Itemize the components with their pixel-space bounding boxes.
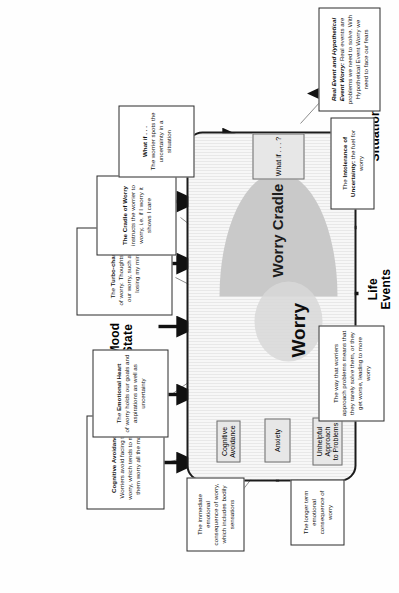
note-emotional-heart: The Emotional Heart of worry holds our g… [92,349,168,437]
label-life-events: Life Events [366,268,391,309]
note-longer-term-body: The longer term emotional consequence of… [301,490,333,534]
node-cognitive-avoidance-label: Cognitive Avoidance [220,425,236,458]
note-immediate-consequence: The immediate emotional consequence of w… [186,477,244,551]
note-what-if-body: The worrier spots the uncertainty in a s… [148,112,171,170]
note-what-if: What if . . . The worrier spots the unce… [118,105,194,177]
note-cradle-of-worry: The Cradle of Worry instructs the worrie… [96,175,176,255]
note-emotional-heart-body: of worry holds our goals and aspirations… [122,354,145,432]
note-what-if-head: What if . . . [140,126,147,157]
node-anxiety-label: Anxiety [273,429,281,452]
node-unhelpful-approach[interactable]: Unhelpful Approach to Problems [312,417,342,465]
note-cradle-of-worry-body: instructs the worrier to worry, i.e. if … [128,185,151,246]
node-unhelpful-approach-label: Unhelpful Approach to Problems [315,422,339,459]
node-anxiety[interactable]: Anxiety [264,418,290,462]
note-intolerance-lead: The [340,177,347,189]
note-cognitive-avoidance-head: Cognitive Avoidance [109,432,116,493]
note-emotional-heart-head: Emotional Heart [114,363,121,410]
note-turbo-charger-lead: The [108,286,115,298]
diagram-canvas: Worry Cradle Worry Cognitive Avoidance A… [0,0,399,593]
note-immediate-consequence-body: The immediate emotional consequence of w… [195,483,235,545]
node-what-if[interactable]: What if . . . ? [252,133,304,179]
worry-cradle-label: Worry Cradle [268,183,285,277]
node-what-if-label: What if . . . ? [274,136,282,175]
note-problem-approach: The way that worriers approach problems … [318,325,384,421]
note-problem-approach-body: The way that worriers approach problems … [331,330,371,415]
note-real-hypothetical-worry: Real Event and Hypothetical Event Worry:… [318,7,380,111]
node-cognitive-avoidance[interactable]: Cognitive Avoidance [216,420,240,462]
note-cradle-of-worry-head: The Cradle of Worry [120,185,127,244]
note-longer-term: The longer term emotional consequence of… [290,479,344,545]
note-intolerance-of-uncertainty: The Intolerance of Uncertainty: the fuel… [330,117,374,209]
note-emotional-heart-lead: The [114,411,121,423]
worry-label: Worry [287,302,309,357]
figure-root: Worry Cradle Worry Cognitive Avoidance A… [0,0,399,593]
